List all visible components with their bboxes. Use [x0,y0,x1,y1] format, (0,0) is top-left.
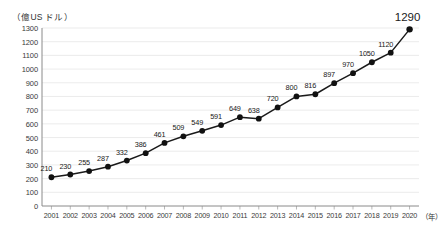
data-point-marker [124,158,130,164]
y-axis-tick-label: 400 [12,147,38,156]
data-point-marker [350,70,356,76]
data-value-label: 332 [116,148,128,157]
x-tick-marks [51,206,409,210]
y-axis-tick-label: 200 [12,174,38,183]
y-axis-unit-label: （億US ドル） [12,10,73,22]
y-axis-tick-label: 1300 [12,24,38,33]
data-value-label: 649 [229,104,241,113]
y-axis-tick-label: 800 [12,92,38,101]
y-axis-tick-label: 600 [12,119,38,128]
data-value-label: 287 [97,154,109,163]
data-point-marker [105,164,111,170]
data-point-marker [218,122,224,128]
data-point-marker [143,150,149,156]
y-axis-tick-label: 900 [12,78,38,87]
data-value-label: 800 [286,83,298,92]
data-point-marker [312,91,318,97]
x-axis-unit-label: （年） [421,211,442,222]
data-point-marker [331,80,337,86]
data-value-label: 230 [59,162,71,171]
data-value-label: 255 [78,158,90,167]
data-point-marker [86,168,92,174]
data-value-label: 816 [304,81,316,90]
data-value-label: 386 [135,140,147,149]
data-value-label: 970 [342,60,354,69]
data-point-marker [294,94,300,100]
data-point-marker [275,105,281,111]
data-value-label: 210 [41,164,53,173]
data-value-label: 1050 [359,49,375,58]
data-point-marker [199,128,205,134]
y-axis-tick-label: 0 [12,202,38,211]
data-value-label: 1120 [378,40,393,49]
y-axis-tick-label: 500 [12,133,38,142]
x-axis-tick-label: 2020 [397,211,423,220]
data-point-marker [256,116,262,122]
data-value-label: 509 [173,123,185,132]
data-point-marker [406,26,412,32]
data-value-label: 549 [191,118,203,127]
data-point-marker [369,59,375,65]
data-value-label: 591 [210,112,222,121]
y-axis-tick-label: 700 [12,106,38,115]
data-point-marker [237,114,243,120]
data-value-label: 897 [323,70,335,79]
data-value-label: 638 [248,106,260,115]
data-point-marker [388,50,394,56]
data-value-label: 720 [267,94,279,103]
y-axis-tick-label: 1200 [12,37,38,46]
data-point-marker [49,174,55,180]
data-point-marker [180,133,186,139]
data-value-label: 461 [154,130,166,139]
data-point-marker [67,172,73,178]
data-value-label: 1290 [395,11,421,23]
y-axis-tick-label: 1000 [12,65,38,74]
y-axis-tick-label: 1100 [12,51,38,60]
y-axis-tick-label: 300 [12,160,38,169]
data-point-marker [162,140,168,146]
y-axis-tick-label: 100 [12,188,38,197]
